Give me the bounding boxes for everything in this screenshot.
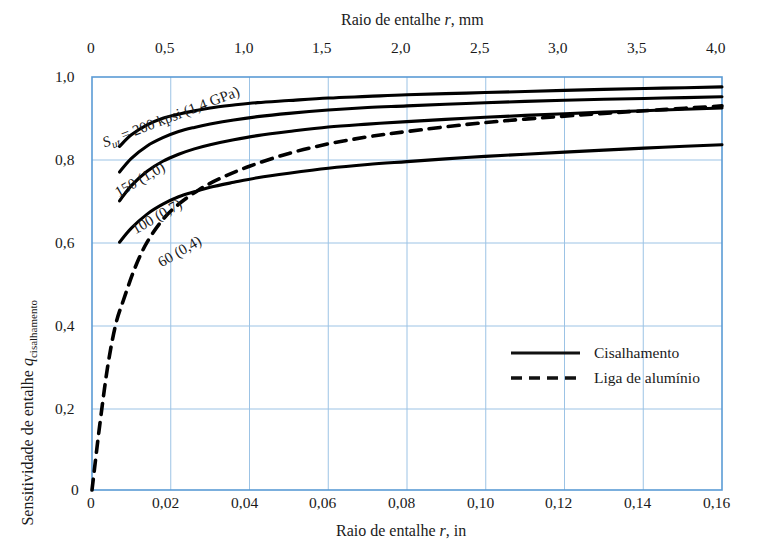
legend-label-dashed: Liga de alumínio [594, 370, 700, 386]
curve-4 [120, 145, 722, 242]
plot-canvas [0, 0, 769, 559]
grid-lines [92, 77, 722, 490]
legend-label-solid: Cisalhamento [594, 345, 679, 361]
chart-figure: Raio de entalhe r, mm 0 0,5 1,0 1,5 2,0 … [0, 0, 769, 559]
